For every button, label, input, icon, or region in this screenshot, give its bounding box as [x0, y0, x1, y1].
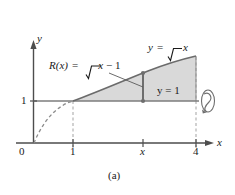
- radius-top-point: [141, 71, 145, 75]
- x-tick-label-4: 4: [193, 146, 199, 157]
- radius-label: R(x)=x− 1: [49, 60, 121, 71]
- axis-of-revolution-label: y = 1: [157, 85, 180, 96]
- radius-label-lhs: R(x): [49, 59, 68, 71]
- curve-label-radicand: x: [183, 41, 188, 53]
- rotation-arrow-icon: [202, 90, 215, 114]
- radius-label-tail: − 1: [106, 59, 120, 71]
- x-axis-arrowhead: [205, 140, 214, 146]
- radius-label-equals: =: [72, 59, 78, 71]
- radius-label-radicand: x: [98, 59, 103, 71]
- x-tick-label-x: x: [140, 146, 145, 157]
- y-tick-label-1: 1: [21, 95, 27, 106]
- curve-label-lhs: y: [148, 41, 153, 53]
- radius-bottom-point: [141, 99, 145, 103]
- y-axis-arrowhead: [30, 40, 36, 49]
- x-axis-label: x: [217, 137, 222, 148]
- x-tick-label-0: 0: [19, 146, 25, 157]
- figure-caption: (a): [108, 170, 120, 181]
- curve-label-equals: =: [157, 41, 163, 53]
- x-tick-label-1: 1: [70, 146, 76, 157]
- curve-label: y=x: [148, 42, 188, 53]
- y-axis-label: y: [37, 33, 42, 44]
- figure-container: y x 0 1 x 4 1 R(x)=x− 1 y=x y = 1 (a): [0, 0, 235, 195]
- curve-sqrt-dashed: [34, 101, 73, 143]
- figure-graphic: [0, 0, 235, 195]
